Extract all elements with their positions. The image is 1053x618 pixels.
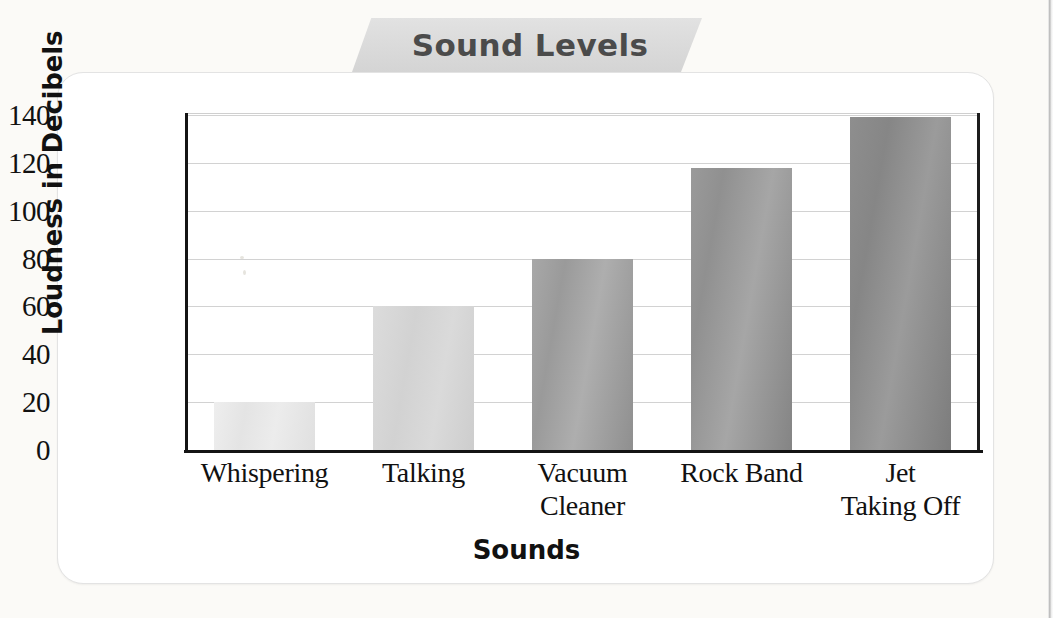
x-axis-tick-labels: WhisperingTalkingVacuumCleanerRock BandJ… bbox=[185, 456, 980, 536]
y-tick-label-20: 20 bbox=[0, 386, 50, 419]
y-tick-label-0: 0 bbox=[0, 434, 50, 467]
chart-page: Sound Levels Loudness in Decibels 020406… bbox=[0, 0, 1053, 618]
bar-rock-band bbox=[691, 168, 792, 450]
y-axis-line bbox=[185, 113, 188, 452]
y-tick-label-60: 60 bbox=[0, 290, 50, 323]
plot-area bbox=[185, 115, 980, 450]
y-tick-label-40: 40 bbox=[0, 338, 50, 371]
x-axis-title: Sounds bbox=[0, 535, 1053, 565]
bar-whispering bbox=[214, 402, 315, 450]
plot-top-edge bbox=[185, 113, 980, 114]
bar-talking bbox=[373, 306, 474, 450]
x-axis-line bbox=[184, 450, 983, 453]
x-tick-label-line: Cleaner bbox=[483, 489, 683, 522]
y-tick-label-80: 80 bbox=[0, 242, 50, 275]
paper-speck bbox=[240, 256, 244, 259]
x-tick-label-line: Taking Off bbox=[801, 489, 1001, 522]
bar-jet-taking-off bbox=[850, 117, 951, 450]
x-tick-label-jet-taking-off: JetTaking Off bbox=[801, 456, 1001, 522]
plot-right-edge bbox=[977, 113, 980, 452]
bar-vacuum-cleaner bbox=[532, 259, 633, 450]
y-tick-label-100: 100 bbox=[0, 194, 50, 227]
y-tick-label-120: 120 bbox=[0, 146, 50, 179]
paper-speck bbox=[243, 270, 246, 275]
gridline-140 bbox=[185, 115, 980, 116]
x-tick-label-line: Jet bbox=[801, 456, 1001, 489]
y-tick-label-140: 140 bbox=[0, 99, 50, 132]
